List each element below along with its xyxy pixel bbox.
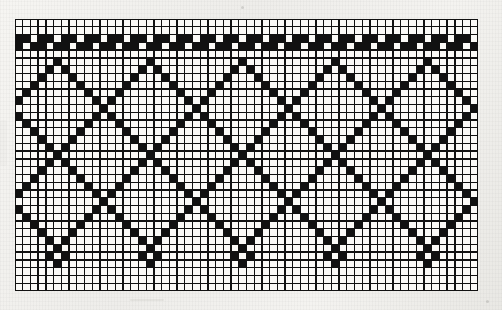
filled-block-cell[interactable] — [378, 42, 386, 50]
filled-block-cell[interactable] — [185, 35, 193, 43]
filled-block-cell[interactable] — [308, 81, 316, 89]
filled-block-cell[interactable] — [432, 252, 440, 260]
filled-block-cell[interactable] — [162, 35, 170, 43]
filled-block-cell[interactable] — [231, 35, 239, 43]
filled-block-cell[interactable] — [416, 252, 424, 260]
filled-block-cell[interactable] — [355, 128, 363, 136]
filled-block-cell[interactable] — [239, 151, 247, 159]
filled-block-cell[interactable] — [393, 182, 401, 190]
filled-block-cell[interactable] — [38, 136, 46, 144]
filled-block-cell[interactable] — [385, 190, 393, 198]
filled-block-cell[interactable] — [154, 252, 162, 260]
filled-block-cell[interactable] — [362, 89, 370, 97]
filled-block-cell[interactable] — [92, 190, 100, 198]
filled-block-cell[interactable] — [285, 198, 293, 206]
filled-block-cell[interactable] — [447, 174, 455, 182]
filled-block-cell[interactable] — [401, 128, 409, 136]
filled-block-cell[interactable] — [162, 136, 170, 144]
filled-block-cell[interactable] — [100, 198, 108, 206]
filled-block-cell[interactable] — [262, 221, 270, 229]
filled-block-cell[interactable] — [439, 35, 447, 43]
filled-block-cell[interactable] — [331, 260, 339, 268]
filled-block-cell[interactable] — [247, 252, 255, 260]
filled-block-cell[interactable] — [432, 143, 440, 151]
filled-block-cell[interactable] — [23, 182, 31, 190]
filled-block-cell[interactable] — [370, 35, 378, 43]
filled-block-cell[interactable] — [92, 206, 100, 214]
filled-block-cell[interactable] — [61, 237, 69, 245]
filled-block-cell[interactable] — [15, 97, 23, 105]
filled-block-cell[interactable] — [38, 73, 46, 81]
filled-block-cell[interactable] — [61, 35, 69, 43]
filled-block-cell[interactable] — [432, 237, 440, 245]
filled-block-cell[interactable] — [84, 182, 92, 190]
filled-block-cell[interactable] — [54, 151, 62, 159]
filled-block-cell[interactable] — [339, 159, 347, 167]
filled-block-cell[interactable] — [393, 35, 401, 43]
filled-block-cell[interactable] — [30, 221, 38, 229]
filled-block-cell[interactable] — [393, 120, 401, 128]
filled-block-cell[interactable] — [216, 81, 224, 89]
filled-block-cell[interactable] — [324, 66, 332, 74]
filled-block-cell[interactable] — [301, 120, 309, 128]
filled-block-cell[interactable] — [401, 42, 409, 50]
filled-block-cell[interactable] — [46, 159, 54, 167]
filled-block-cell[interactable] — [108, 112, 116, 120]
filled-block-cell[interactable] — [463, 97, 471, 105]
filled-block-cell[interactable] — [270, 89, 278, 97]
filled-block-cell[interactable] — [69, 73, 77, 81]
filled-block-cell[interactable] — [200, 35, 208, 43]
filled-block-cell[interactable] — [162, 167, 170, 175]
filled-block-cell[interactable] — [200, 206, 208, 214]
filled-block-cell[interactable] — [154, 66, 162, 74]
filled-block-cell[interactable] — [131, 136, 139, 144]
filled-block-cell[interactable] — [146, 151, 154, 159]
filled-block-cell[interactable] — [169, 221, 177, 229]
filled-block-cell[interactable] — [262, 81, 270, 89]
filled-block-cell[interactable] — [61, 66, 69, 74]
filled-block-cell[interactable] — [177, 213, 185, 221]
filled-block-cell[interactable] — [138, 252, 146, 260]
filled-block-cell[interactable] — [185, 190, 193, 198]
filled-block-cell[interactable] — [30, 128, 38, 136]
filled-block-cell[interactable] — [331, 151, 339, 159]
filled-block-cell[interactable] — [231, 252, 239, 260]
filled-block-cell[interactable] — [254, 167, 262, 175]
filled-block-cell[interactable] — [385, 206, 393, 214]
filled-block-cell[interactable] — [108, 206, 116, 214]
filled-block-cell[interactable] — [370, 206, 378, 214]
filled-block-cell[interactable] — [401, 81, 409, 89]
filled-block-cell[interactable] — [463, 35, 471, 43]
filled-block-cell[interactable] — [169, 81, 177, 89]
filled-block-cell[interactable] — [409, 136, 417, 144]
filled-block-cell[interactable] — [247, 66, 255, 74]
filled-block-cell[interactable] — [208, 120, 216, 128]
filled-block-cell[interactable] — [316, 35, 324, 43]
filled-block-cell[interactable] — [231, 159, 239, 167]
filled-block-cell[interactable] — [177, 35, 185, 43]
filled-block-cell[interactable] — [270, 120, 278, 128]
filled-block-cell[interactable] — [347, 35, 355, 43]
filled-block-cell[interactable] — [308, 221, 316, 229]
filled-block-cell[interactable] — [61, 42, 69, 50]
filled-block-cell[interactable] — [470, 104, 478, 112]
filled-block-cell[interactable] — [347, 167, 355, 175]
filled-block-cell[interactable] — [231, 237, 239, 245]
filled-block-cell[interactable] — [131, 73, 139, 81]
filled-block-cell[interactable] — [277, 206, 285, 214]
filled-block-cell[interactable] — [38, 167, 46, 175]
filled-block-cell[interactable] — [331, 42, 339, 50]
filled-block-cell[interactable] — [347, 136, 355, 144]
filled-block-cell[interactable] — [270, 35, 278, 43]
filled-block-cell[interactable] — [223, 35, 231, 43]
filled-block-cell[interactable] — [23, 89, 31, 97]
filled-block-cell[interactable] — [362, 213, 370, 221]
filled-block-cell[interactable] — [324, 237, 332, 245]
filled-block-cell[interactable] — [455, 35, 463, 43]
filled-block-cell[interactable] — [455, 182, 463, 190]
filled-block-cell[interactable] — [455, 89, 463, 97]
filled-block-cell[interactable] — [262, 42, 270, 50]
filled-block-cell[interactable] — [409, 229, 417, 237]
filled-block-cell[interactable] — [324, 143, 332, 151]
filled-block-cell[interactable] — [247, 143, 255, 151]
